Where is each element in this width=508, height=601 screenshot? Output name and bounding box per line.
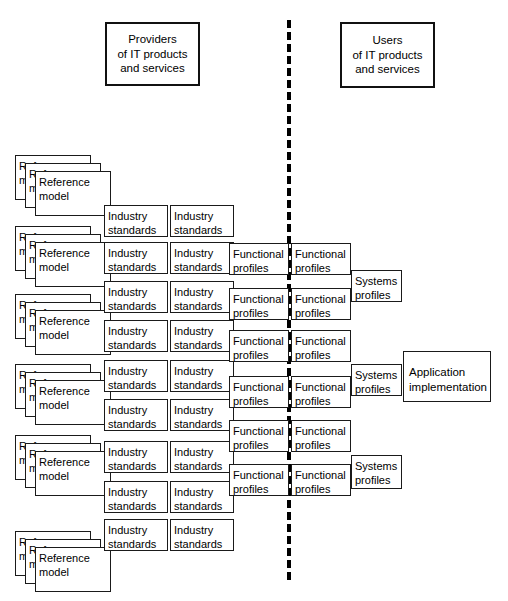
application-implementation-box: Application implementation <box>403 351 491 402</box>
header-providers: Providers of IT products and services <box>105 22 200 86</box>
diagram-canvas: Providers of IT products and services Us… <box>0 0 508 601</box>
industry-standards-cell: Industry standards <box>104 320 168 352</box>
functional-profiles-cell-user: Functional profiles <box>291 288 351 320</box>
reference-model-layer: Reference model <box>35 171 111 216</box>
header-users: Users of IT products and services <box>340 22 435 88</box>
systems-profiles-cell: Systems profiles <box>351 455 402 489</box>
reference-model-layer: Reference model <box>35 547 111 592</box>
functional-profiles-cell-provider: Functional profiles <box>229 243 289 275</box>
industry-standards-cell: Industry standards <box>170 441 234 473</box>
functional-profiles-cell-user: Functional profiles <box>291 464 351 496</box>
industry-standards-cell: Industry standards <box>104 399 168 431</box>
systems-profiles-cell: Systems profiles <box>351 270 402 302</box>
industry-standards-cell: Industry standards <box>170 320 234 352</box>
industry-standards-cell: Industry standards <box>170 205 234 237</box>
industry-standards-cell: Industry standards <box>104 360 168 392</box>
reference-model-layer: Reference model <box>35 380 111 425</box>
functional-profiles-cell-provider: Functional profiles <box>229 376 289 408</box>
functional-profiles-cell-user: Functional profiles <box>291 243 351 275</box>
industry-standards-cell: Industry standards <box>170 242 234 274</box>
industry-standards-cell: Industry standards <box>104 281 168 313</box>
industry-standards-cell: Industry standards <box>170 360 234 392</box>
industry-standards-cell: Industry standards <box>104 481 168 513</box>
functional-profiles-cell-provider: Functional profiles <box>229 330 289 362</box>
industry-standards-cell: Industry standards <box>104 242 168 274</box>
reference-model-layer: Reference model <box>35 451 111 496</box>
industry-standards-cell: Industry standards <box>170 481 234 513</box>
functional-profiles-cell-provider: Functional profiles <box>229 464 289 496</box>
functional-profiles-cell-user: Functional profiles <box>291 330 351 362</box>
functional-profiles-cell-user: Functional profiles <box>291 376 351 408</box>
industry-standards-cell: Industry standards <box>104 441 168 473</box>
reference-model-layer: Reference model <box>35 310 111 355</box>
industry-standards-cell: Industry standards <box>104 519 168 551</box>
industry-standards-cell: Industry standards <box>104 205 168 237</box>
functional-profiles-cell-user: Functional profiles <box>291 420 351 452</box>
systems-profiles-cell: Systems profiles <box>351 364 402 396</box>
reference-model-layer: Reference model <box>35 242 111 287</box>
functional-profiles-cell-provider: Functional profiles <box>229 420 289 452</box>
industry-standards-cell: Industry standards <box>170 281 234 313</box>
industry-standards-cell: Industry standards <box>170 399 234 431</box>
industry-standards-cell: Industry standards <box>170 519 234 551</box>
functional-profiles-cell-provider: Functional profiles <box>229 288 289 320</box>
